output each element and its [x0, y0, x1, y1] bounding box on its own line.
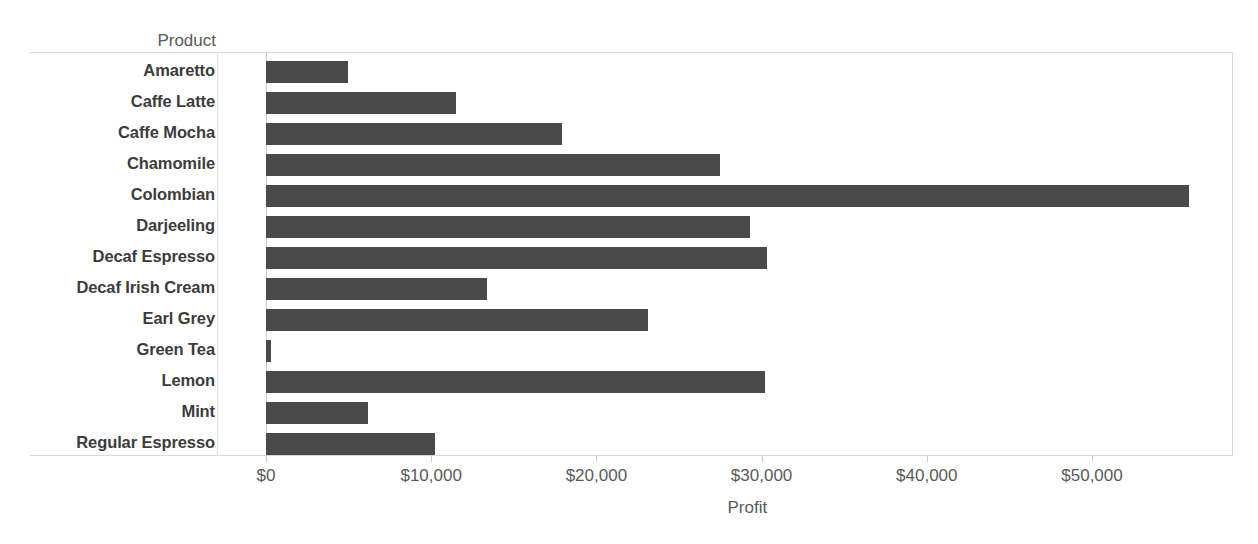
category-label: Decaf Espresso — [0, 243, 215, 274]
bar[interactable] — [266, 402, 368, 424]
bar-track — [266, 274, 1233, 305]
bar-row: Chamomile — [0, 150, 1258, 181]
bar-row: Colombian — [0, 181, 1258, 212]
x-axis-ticks — [0, 456, 1258, 464]
x-axis-title: Profit — [728, 498, 768, 518]
x-tick-label: $0 — [257, 466, 276, 486]
bar-track — [266, 88, 1233, 119]
bar-row: Decaf Espresso — [0, 243, 1258, 274]
bar[interactable] — [266, 92, 456, 114]
category-label: Amaretto — [0, 57, 215, 88]
bar-track — [266, 367, 1233, 398]
category-label: Lemon — [0, 367, 215, 398]
bar-row: Caffe Mocha — [0, 119, 1258, 150]
bar[interactable] — [266, 278, 487, 300]
bar-row: Darjeeling — [0, 212, 1258, 243]
category-label: Caffe Latte — [0, 88, 215, 119]
category-label: Mint — [0, 398, 215, 429]
x-tick-label: $40,000 — [896, 466, 957, 486]
x-tick-label: $30,000 — [731, 466, 792, 486]
bar-track — [266, 181, 1233, 212]
category-label: Earl Grey — [0, 305, 215, 336]
bar-track — [266, 119, 1233, 150]
category-label: Chamomile — [0, 150, 215, 181]
category-label: Caffe Mocha — [0, 119, 215, 150]
bar-track — [266, 398, 1233, 429]
x-axis-tick-labels: $0$10,000$20,000$30,000$40,000$50,000 — [0, 466, 1258, 490]
y-axis-header: Product — [30, 30, 216, 52]
bar-track — [266, 243, 1233, 274]
bar-row: Caffe Latte — [0, 88, 1258, 119]
bar-track — [266, 57, 1233, 88]
x-tick-label: $20,000 — [566, 466, 627, 486]
x-tick-mark — [596, 456, 597, 462]
bar-track — [266, 212, 1233, 243]
bar[interactable] — [266, 340, 271, 362]
category-label: Colombian — [0, 181, 215, 212]
bar-row: Amaretto — [0, 57, 1258, 88]
bar-track — [266, 336, 1233, 367]
bar-row: Lemon — [0, 367, 1258, 398]
bar[interactable] — [266, 309, 648, 331]
bar[interactable] — [266, 371, 765, 393]
bar-row: Decaf Irish Cream — [0, 274, 1258, 305]
bar-row: Mint — [0, 398, 1258, 429]
bar[interactable] — [266, 247, 767, 269]
bar[interactable] — [266, 61, 348, 83]
bar[interactable] — [266, 433, 435, 455]
x-tick-mark — [927, 456, 928, 462]
x-tick-mark — [1092, 456, 1093, 462]
category-label: Decaf Irish Cream — [0, 274, 215, 305]
category-label: Green Tea — [0, 336, 215, 367]
x-tick-mark — [431, 456, 432, 462]
bar[interactable] — [266, 216, 750, 238]
profit-by-product-bar-chart: Product AmarettoCaffe LatteCaffe MochaCh… — [0, 0, 1258, 544]
bar[interactable] — [266, 185, 1189, 207]
category-label: Darjeeling — [0, 212, 215, 243]
bar-track — [266, 150, 1233, 181]
x-axis-title-wrapper: Profit — [0, 498, 1258, 518]
bar-rows: AmarettoCaffe LatteCaffe MochaChamomileC… — [0, 57, 1258, 460]
bar[interactable] — [266, 123, 562, 145]
x-tick-label: $10,000 — [400, 466, 461, 486]
bar-row: Green Tea — [0, 336, 1258, 367]
bar-track — [266, 305, 1233, 336]
bar[interactable] — [266, 154, 720, 176]
x-tick-label: $50,000 — [1061, 466, 1122, 486]
bar-row: Earl Grey — [0, 305, 1258, 336]
x-tick-mark — [266, 456, 267, 462]
x-tick-mark — [762, 456, 763, 462]
